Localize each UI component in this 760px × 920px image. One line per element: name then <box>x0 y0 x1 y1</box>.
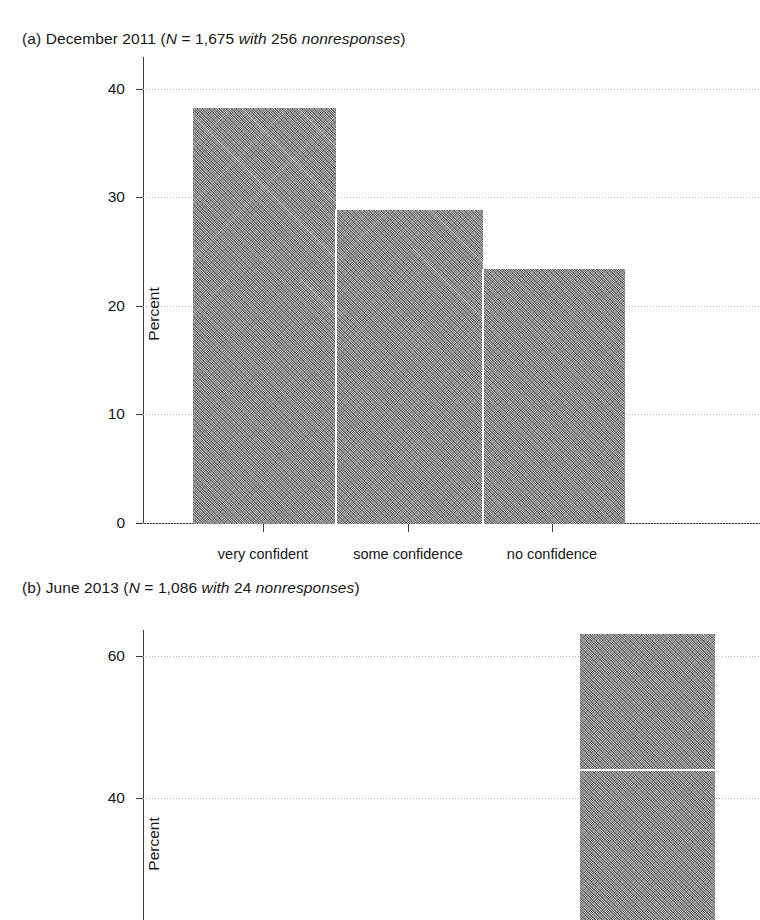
panel-a-title-count: 256 <box>267 30 302 47</box>
panel-a-xtick-1: some confidence <box>408 524 409 532</box>
bar-very-confident <box>193 108 336 524</box>
bar-some-confidence <box>336 210 483 524</box>
panel-a-title-prefix: (a) December 2011 ( <box>22 30 166 47</box>
panel-a-ytick-40: 40 <box>136 89 143 90</box>
panel-a-title-with: with <box>239 30 267 47</box>
panel-b-ytick-label-40: 40 <box>108 789 125 807</box>
panel-a-plot-area: 0 10 20 30 40 very confident some confid… <box>143 57 760 524</box>
panel-b-title-eq: = 1,086 <box>140 579 202 596</box>
panel-b-plot-area: 60 40 Percent <box>143 630 760 920</box>
panel-b-title-suffix: ) <box>354 579 359 596</box>
panel-a-ytick-label-0: 0 <box>116 514 125 532</box>
bar-june-2013-segment-divider <box>580 769 715 771</box>
panel-a-ytick-10: 10 <box>136 414 143 415</box>
panel-a-y-axis-title: Percent <box>145 287 163 340</box>
panel-a-title-n: N <box>166 30 177 47</box>
bar-separator-2 <box>482 269 484 524</box>
panel-a-ytick-label-30: 30 <box>108 188 125 206</box>
panel-b-y-axis-title: Percent <box>145 817 163 870</box>
panel-b-title-with: with <box>202 579 230 596</box>
panel-b-title-nonresponses: nonresponses <box>256 579 355 596</box>
panel-b-ytick-40: 40 <box>136 798 143 799</box>
chart-panel-june-2013: (b) June 2013 (N = 1,086 with 24 nonresp… <box>0 565 760 920</box>
panel-a-gridline-40 <box>143 89 760 90</box>
panel-b-title-prefix: (b) June 2013 ( <box>22 579 129 596</box>
panel-b-ytick-60: 60 <box>136 656 143 657</box>
panel-a-ytick-label-40: 40 <box>108 80 125 98</box>
panel-a-ytick-label-20: 20 <box>108 297 125 315</box>
panel-b-y-axis-line <box>143 630 144 920</box>
panel-b-ytick-label-60: 60 <box>108 647 125 665</box>
panel-a-title-suffix: ) <box>400 30 405 47</box>
panel-a-xtick-0: very confident <box>263 524 264 532</box>
panel-a-xtick-label-some-confidence: some confidence <box>353 546 463 562</box>
panel-a-xtick-2: no confidence <box>552 524 553 532</box>
bar-separator-1 <box>335 210 337 524</box>
bar-june-2013-no-confidence <box>580 634 715 920</box>
panel-a-ytick-0: 0 <box>136 523 143 524</box>
panel-a-ytick-20: 20 <box>136 306 143 307</box>
panel-a-xtick-label-very-confident: very confident <box>218 546 308 562</box>
panel-a-ytick-label-10: 10 <box>108 405 125 423</box>
panel-a-title-eq: = 1,675 <box>177 30 239 47</box>
panel-a-title: (a) December 2011 (N = 1,675 with 256 no… <box>22 30 406 48</box>
panel-a-ytick-30: 30 <box>136 197 143 198</box>
panel-a-title-nonresponses: nonresponses <box>302 30 401 47</box>
bar-no-confidence <box>483 269 625 524</box>
panel-b-title: (b) June 2013 (N = 1,086 with 24 nonresp… <box>22 579 360 597</box>
chart-panel-december-2011: (a) December 2011 (N = 1,675 with 256 no… <box>0 0 760 565</box>
panel-a-xtick-label-no-confidence: no confidence <box>507 546 597 562</box>
panel-b-title-n: N <box>129 579 140 596</box>
panel-b-title-count: 24 <box>230 579 256 596</box>
